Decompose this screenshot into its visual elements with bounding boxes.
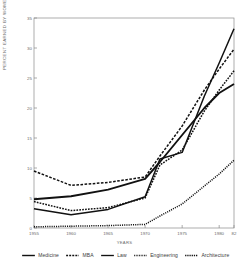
legend-swatch-law <box>99 254 116 257</box>
figure: 0510152025303519551960196519701975198082… <box>0 0 249 274</box>
svg-text:1955: 1955 <box>29 231 39 236</box>
svg-text:1970: 1970 <box>140 231 150 236</box>
legend-item-engineering[interactable]: Engineering <box>132 252 178 258</box>
svg-text:1975: 1975 <box>177 231 187 236</box>
svg-text:35: 35 <box>27 16 32 21</box>
legend-label: Medicine <box>38 252 59 258</box>
series-line-medicine <box>34 84 234 199</box>
legend-label: MBA <box>83 252 94 258</box>
legend-swatch-engineering <box>132 254 149 257</box>
svg-text:20: 20 <box>27 106 32 111</box>
svg-text:1965: 1965 <box>103 231 113 236</box>
svg-text:25: 25 <box>27 76 32 81</box>
x-axis-title: YEARS <box>0 240 249 245</box>
svg-text:82: 82 <box>232 231 237 236</box>
legend-label: Architecture <box>201 252 229 258</box>
y-axis-title: PERCENT EARNED BY WOMEN <box>2 0 7 70</box>
legend-item-law[interactable]: Law <box>99 252 127 258</box>
legend-item-architecture[interactable]: Architecture <box>183 252 229 258</box>
svg-text:5: 5 <box>30 196 33 201</box>
legend-swatch-medicine <box>20 254 37 257</box>
series-group <box>34 29 234 227</box>
svg-text:1980: 1980 <box>214 231 224 236</box>
tick-labels: 0510152025303519551960196519701975198082 <box>27 16 237 236</box>
series-line-mba <box>34 49 234 185</box>
line-chart: 0510152025303519551960196519701975198082 <box>0 0 249 274</box>
svg-text:10: 10 <box>27 166 32 171</box>
chart-legend: MedicineMBALawEngineeringArchitecture <box>0 252 249 258</box>
legend-label: Law <box>117 252 126 258</box>
legend-label: Engineering <box>150 252 178 258</box>
legend-swatch-architecture <box>183 254 200 257</box>
series-line-engineering <box>34 160 234 227</box>
svg-text:1960: 1960 <box>66 231 76 236</box>
legend-item-mba[interactable]: MBA <box>64 252 94 258</box>
legend-item-medicine[interactable]: Medicine <box>20 252 59 258</box>
legend-swatch-mba <box>64 254 81 257</box>
svg-text:30: 30 <box>27 46 32 51</box>
svg-text:15: 15 <box>27 136 32 141</box>
